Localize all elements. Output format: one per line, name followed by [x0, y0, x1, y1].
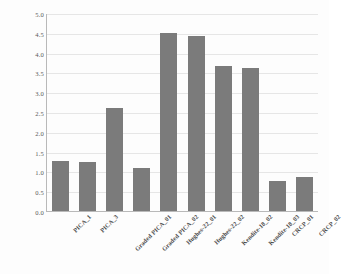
bar — [269, 181, 286, 211]
y-tick-label: 3.5 — [22, 70, 44, 77]
bar — [215, 66, 232, 211]
bar — [133, 168, 150, 211]
bar — [52, 161, 69, 211]
y-tick-label: 4.0 — [22, 50, 44, 57]
y-tick-label: 0.0 — [22, 209, 44, 216]
y-tick-label: 1.5 — [22, 149, 44, 156]
y-tick-label: 2.0 — [22, 129, 44, 136]
bar — [242, 68, 259, 211]
bar — [106, 108, 123, 211]
bar-series — [47, 14, 318, 211]
y-tick-label: 4.5 — [22, 30, 44, 37]
bar — [188, 36, 205, 211]
x-tick-label: PICA_3 — [98, 213, 119, 234]
y-tick-label: 2.5 — [22, 110, 44, 117]
y-tick-label: 3.0 — [22, 90, 44, 97]
bar — [296, 177, 313, 211]
bar — [79, 162, 96, 211]
x-tick-label: PICA_1 — [71, 213, 92, 234]
x-axis-tick-labels: PICA_1PICA_3Graded PICA_01Graded PICA_02… — [46, 213, 318, 274]
y-tick-label: 5.0 — [22, 11, 44, 18]
y-tick-label: 0.5 — [22, 189, 44, 196]
bar — [160, 33, 177, 211]
y-axis-tick-labels: 0.00.51.01.52.02.53.03.54.04.55.0 — [22, 0, 44, 274]
plot-area — [46, 14, 318, 212]
x-tick-label: CRCP_02 — [317, 213, 341, 237]
y-tick-label: 1.0 — [22, 169, 44, 176]
